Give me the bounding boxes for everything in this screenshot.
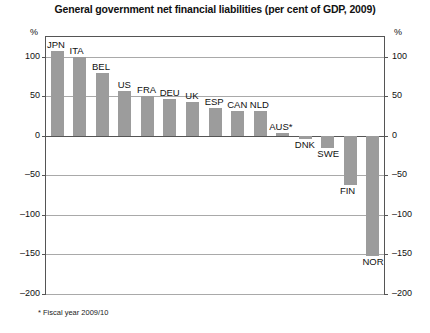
- bar-jpn[interactable]: [51, 51, 64, 136]
- bar-fin[interactable]: [344, 136, 357, 185]
- y-tick-right--50: [384, 175, 388, 176]
- y-axis-label-right--50: –50: [392, 170, 430, 179]
- bar-label-bel: BEL: [92, 62, 110, 72]
- bar-label-fra: FRA: [137, 85, 156, 95]
- y-axis-label-left--150: –150: [6, 249, 40, 258]
- bar-label-ita: ITA: [70, 46, 84, 56]
- y-axis-label-left--100: –100: [6, 210, 40, 219]
- y-axis-label-left--50: –50: [6, 170, 40, 179]
- bar-label-us: US: [118, 80, 131, 90]
- bar-label-nld: NLD: [250, 100, 269, 110]
- y-tick-left--100: [42, 215, 46, 216]
- y-axis-label-left-100: 100: [6, 52, 40, 61]
- bar-label-can: CAN: [227, 100, 247, 110]
- bar-nor[interactable]: [366, 136, 379, 256]
- bar-label-fin: FIN: [340, 186, 355, 196]
- y-axis-label-right--200: –200: [392, 289, 430, 298]
- y-tick-left-0: [42, 136, 46, 137]
- plot-area: 100100505000–50–50–100–100–150–150–200–2…: [45, 36, 385, 295]
- y-tick-left--150: [42, 254, 46, 255]
- bar-esp[interactable]: [209, 108, 222, 136]
- bar-label-aus: AUS*: [269, 122, 292, 132]
- y-tick-left-50: [42, 96, 46, 97]
- chart-figure: General government net financial liabili…: [0, 0, 430, 333]
- y-tick-right--200: [384, 294, 388, 295]
- footnote: * Fiscal year 2009/10: [38, 308, 108, 317]
- bar-label-swe: SWE: [317, 149, 339, 159]
- y-axis-label-right--100: –100: [392, 210, 430, 219]
- y-axis-label-left-50: 50: [6, 91, 40, 100]
- gridline-100: [46, 57, 384, 58]
- bar-us[interactable]: [118, 91, 131, 136]
- bar-label-jpn: JPN: [47, 40, 65, 50]
- y-axis-label-right-50: 50: [392, 91, 430, 100]
- y-tick-right--100: [384, 215, 388, 216]
- y-tick-right-100: [384, 57, 388, 58]
- y-axis-label-left--200: –200: [6, 289, 40, 298]
- y-axis-unit-right: %: [394, 27, 402, 37]
- chart-title: General government net financial liabili…: [0, 3, 430, 15]
- gridline--200: [46, 294, 384, 295]
- y-tick-left--200: [42, 294, 46, 295]
- plot-inner: 100100505000–50–50–100–100–150–150–200–2…: [46, 37, 384, 294]
- y-axis-label-right-100: 100: [392, 52, 430, 61]
- gridline--150: [46, 254, 384, 255]
- bar-label-uk: UK: [185, 91, 198, 101]
- y-tick-left-100: [42, 57, 46, 58]
- y-tick-left--50: [42, 175, 46, 176]
- y-tick-right--150: [384, 254, 388, 255]
- bar-can[interactable]: [231, 111, 244, 136]
- bar-deu[interactable]: [163, 99, 176, 136]
- bar-label-dnk: DNK: [295, 140, 315, 150]
- bar-swe[interactable]: [321, 136, 334, 149]
- y-tick-right-50: [384, 96, 388, 97]
- y-tick-right-0: [384, 136, 388, 137]
- y-axis-unit-left: %: [30, 27, 38, 37]
- bar-label-nor: NOR: [362, 257, 383, 267]
- bar-ita[interactable]: [73, 57, 86, 136]
- y-axis-label-left-0: 0: [6, 131, 40, 140]
- bar-label-esp: ESP: [205, 97, 224, 107]
- bar-uk[interactable]: [186, 102, 199, 136]
- bar-fra[interactable]: [141, 96, 154, 136]
- y-axis-label-right-0: 0: [392, 131, 430, 140]
- bar-nld[interactable]: [254, 111, 267, 136]
- gridline--100: [46, 215, 384, 216]
- y-axis-label-right--150: –150: [392, 249, 430, 258]
- bar-bel[interactable]: [96, 73, 109, 135]
- bar-aus[interactable]: [276, 133, 289, 135]
- bar-label-deu: DEU: [160, 88, 180, 98]
- gridline--50: [46, 175, 384, 176]
